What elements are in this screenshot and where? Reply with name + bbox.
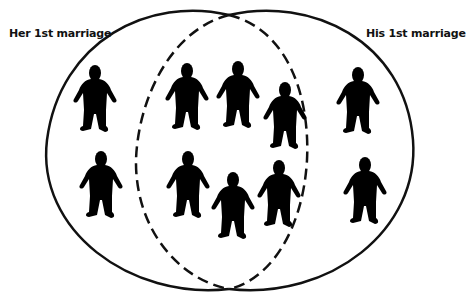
person-icon xyxy=(79,151,122,218)
person-icon xyxy=(166,151,209,218)
person-icon xyxy=(343,157,386,224)
her-marriage-circle xyxy=(46,11,307,290)
his-marriage-circle xyxy=(136,11,413,290)
person-icon xyxy=(257,160,300,227)
person-icon xyxy=(211,172,254,239)
person-icon xyxy=(336,67,379,134)
person-icon xyxy=(73,65,116,132)
person-icon xyxy=(216,61,259,128)
person-icon xyxy=(165,63,208,130)
people-figures xyxy=(73,61,386,239)
